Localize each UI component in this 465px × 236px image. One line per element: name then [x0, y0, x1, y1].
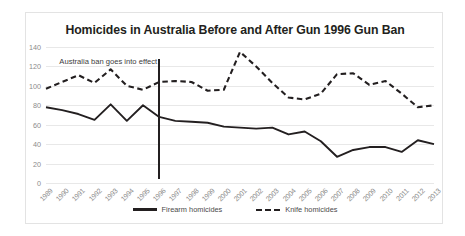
x-tick-label-1991: 1991 — [71, 187, 87, 203]
x-tick-label-2001: 2001 — [232, 187, 248, 203]
chart-legend: Firearm homicides Knife homicides — [26, 205, 444, 214]
x-tick-label-2010: 2010 — [378, 187, 394, 203]
gridline-0 — [46, 183, 434, 184]
x-tick-label-2011: 2011 — [394, 187, 410, 203]
y-tick-label-20: 20 — [33, 159, 41, 168]
x-tick-label-2012: 2012 — [410, 187, 426, 203]
series-line-firearm-homicides — [46, 104, 434, 156]
chart-title: Homicides in Australia Before and After … — [26, 23, 444, 37]
x-tick-label-1989: 1989 — [38, 187, 54, 203]
y-tick-label-60: 60 — [33, 120, 41, 129]
chart-card: Homicides in Australia Before and After … — [25, 12, 443, 224]
annotation-vertical-line — [158, 59, 159, 179]
annotation-label: Australia ban goes into effect — [59, 57, 161, 66]
legend-item-knife-homicides: Knife homicides — [256, 205, 337, 214]
x-tick-label-1997: 1997 — [168, 187, 184, 203]
x-tick-label-1999: 1999 — [200, 187, 216, 203]
y-tick-label-120: 120 — [29, 62, 41, 71]
legend-label-knife-homicides: Knife homicides — [285, 205, 337, 214]
x-tick-label-2000: 2000 — [216, 187, 232, 203]
x-tick-label-2003: 2003 — [265, 187, 281, 203]
x-tick-label-2013: 2013 — [426, 187, 442, 203]
x-tick-label-2006: 2006 — [313, 187, 329, 203]
y-tick-label-0: 0 — [37, 179, 41, 188]
y-tick-label-100: 100 — [29, 81, 41, 90]
x-tick-label-1994: 1994 — [119, 187, 135, 203]
y-tick-label-140: 140 — [29, 43, 41, 52]
x-tick-label-1996: 1996 — [152, 187, 168, 203]
x-tick-label-1990: 1990 — [55, 187, 71, 203]
x-tick-label-2005: 2005 — [297, 187, 313, 203]
solid-line-swatch-icon — [133, 208, 157, 210]
dashed-line-swatch-icon — [256, 209, 280, 211]
y-tick-label-40: 40 — [33, 140, 41, 149]
series-lines — [46, 47, 434, 183]
x-tick-label-2002: 2002 — [249, 187, 265, 203]
y-tick-label-80: 80 — [33, 101, 41, 110]
x-tick-label-2009: 2009 — [362, 187, 378, 203]
x-tick-label-2008: 2008 — [346, 187, 362, 203]
x-tick-label-1993: 1993 — [103, 187, 119, 203]
legend-label-firearm-homicides: Firearm homicides — [162, 205, 223, 214]
legend-item-firearm-homicides: Firearm homicides — [133, 205, 223, 214]
x-tick-label-1992: 1992 — [87, 187, 103, 203]
x-tick-label-2004: 2004 — [281, 187, 297, 203]
plot-area: 020406080100120140 198919901991199219931… — [46, 47, 434, 183]
x-tick-label-2007: 2007 — [329, 187, 345, 203]
x-tick-label-1998: 1998 — [184, 187, 200, 203]
x-tick-label-1995: 1995 — [135, 187, 151, 203]
